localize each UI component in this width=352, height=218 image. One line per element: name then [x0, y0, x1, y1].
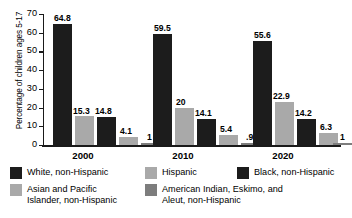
y-tick-label: 50: [16, 46, 37, 55]
legend-item-asian-pacific-islander[interactable]: Asian and Pacific Islander, non-Hispanic: [10, 184, 140, 206]
x-group-label-2010: 2010: [153, 150, 213, 161]
legend-swatch-icon-white-non-hispanic: [10, 167, 22, 179]
y-tick-mark: [39, 126, 43, 127]
y-axis-line: [43, 14, 44, 145]
bar-value-2010-asian: 5.4: [220, 125, 232, 134]
y-tick-label: 30: [16, 84, 37, 93]
y-tick-label: 60: [16, 28, 37, 37]
legend-swatch-icon-hispanic: [145, 167, 157, 179]
legend-label: Hispanic: [162, 167, 197, 178]
bar-value-2020-hispanic: 22.9: [273, 92, 290, 101]
bar-2000-white: [53, 24, 72, 145]
bar-2000-black: [97, 117, 116, 145]
bar-value-2000-hispanic: 15.3: [73, 107, 90, 116]
y-tick-mark: [39, 33, 43, 34]
y-tick-mark: [39, 89, 43, 90]
bar-2010-hispanic: [175, 108, 194, 145]
legend-swatch-icon-black-non-hispanic: [237, 167, 249, 179]
legend-swatch-icon-asian-pacific-islander: [10, 184, 22, 196]
y-tick-mark: [39, 14, 43, 15]
x-group-label-2000: 2000: [53, 150, 113, 161]
y-tick-label: 0: [16, 140, 37, 149]
y-tick-label: 40: [16, 65, 37, 74]
y-tick-label: 70: [16, 9, 37, 18]
legend-label: American Indian, Eskimo, and Aleut, non-…: [162, 184, 283, 206]
bar-value-2010-black: 14.1: [195, 109, 212, 118]
y-tick-label: 10: [16, 121, 37, 130]
bar-value-2000-white: 64.8: [54, 14, 71, 23]
bar-value-2000-black: 14.8: [95, 107, 112, 116]
bar-2010-asian: [219, 135, 238, 145]
bar-value-2020-white: 55.6: [254, 31, 271, 40]
y-tick-mark: [39, 108, 43, 109]
plot-area: 70 60 50 40 30 20 10 0: [43, 12, 343, 145]
bar-value-2010-hispanic: 20: [176, 98, 186, 107]
legend: White, non-Hispanic Hispanic Black, non-…: [0, 164, 350, 218]
bar-value-2000-amindian: 1: [147, 133, 152, 142]
bar-value-2020-black: 14.2: [295, 109, 312, 118]
bar-2010-black: [197, 119, 216, 145]
bar-value-2020-asian: 6.3: [320, 123, 332, 132]
y-tick-mark: [39, 51, 43, 52]
bar-2000-hispanic: [75, 116, 94, 145]
x-group-label-2020: 2020: [253, 150, 313, 161]
legend-swatch-icon-american-indian-eskimo-aleut: [145, 184, 157, 196]
bar-value-2010-white: 59.5: [154, 24, 171, 33]
y-tick-label: 20: [16, 103, 37, 112]
legend-label: Asian and Pacific Islander, non-Hispanic: [27, 184, 117, 206]
bar-2020-asian: [319, 133, 338, 145]
legend-item-black-non-hispanic[interactable]: Black, non-Hispanic: [237, 167, 352, 179]
x-axis-line: [42, 145, 341, 147]
legend-label: Black, non-Hispanic: [254, 167, 334, 178]
bar-value-2000-asian: 4.1: [120, 127, 132, 136]
bar-2020-white: [253, 41, 272, 145]
y-tick-mark: [39, 145, 43, 146]
y-tick-mark: [39, 70, 43, 71]
legend-label: White, non-Hispanic: [27, 167, 108, 178]
legend-item-american-indian-eskimo-aleut[interactable]: American Indian, Eskimo, and Aleut, non-…: [145, 184, 345, 206]
bar-2000-asian: [119, 137, 138, 145]
bar-2020-hispanic: [275, 102, 294, 145]
legend-item-white-non-hispanic[interactable]: White, non-Hispanic: [10, 167, 135, 179]
legend-item-hispanic[interactable]: Hispanic: [145, 167, 235, 179]
bar-2020-black: [297, 119, 316, 146]
bar-2010-white: [153, 34, 172, 145]
